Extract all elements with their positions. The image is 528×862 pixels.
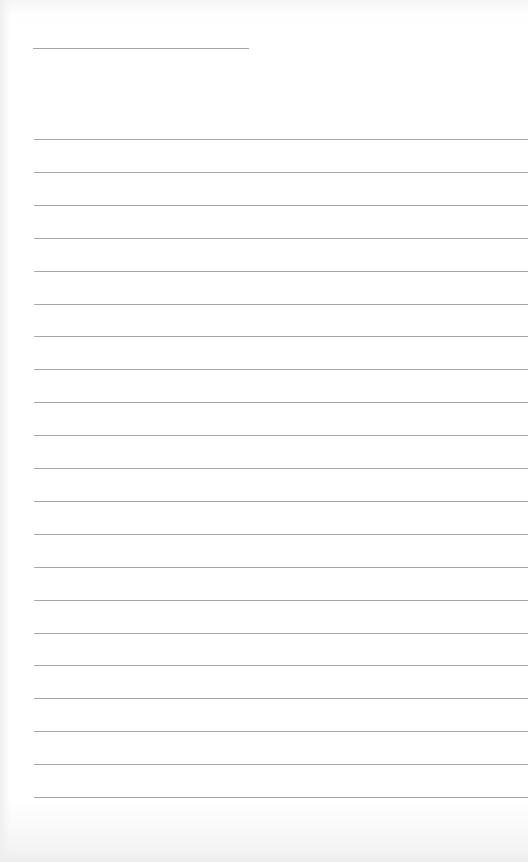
lined-paper-page <box>0 0 528 862</box>
ruled-line <box>34 205 528 206</box>
ruled-line <box>34 304 528 305</box>
ruled-line <box>34 468 528 469</box>
ruled-line <box>34 600 528 601</box>
ruled-line <box>34 336 528 337</box>
header-name-line <box>33 48 249 49</box>
ruled-line <box>34 567 528 568</box>
ruled-line <box>34 797 528 798</box>
ruled-line <box>34 139 528 140</box>
ruled-line <box>34 764 528 765</box>
paper-edge-shadow <box>0 0 10 862</box>
ruled-line <box>34 369 528 370</box>
ruled-line <box>34 698 528 699</box>
ruled-line <box>34 534 528 535</box>
ruled-line <box>34 271 528 272</box>
ruled-line <box>34 435 528 436</box>
ruled-line <box>34 731 528 732</box>
ruled-line <box>34 665 528 666</box>
ruled-line <box>34 238 528 239</box>
ruled-line <box>34 172 528 173</box>
ruled-line <box>34 402 528 403</box>
ruled-line <box>34 633 528 634</box>
ruled-line <box>34 501 528 502</box>
